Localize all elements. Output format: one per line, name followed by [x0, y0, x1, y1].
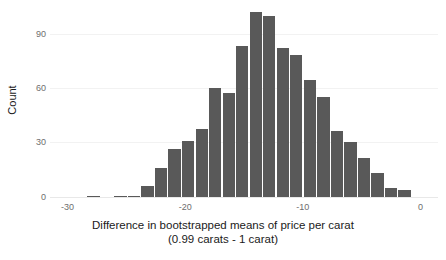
gridline-90	[50, 34, 438, 35]
x-axis-title-line1: Difference in bootstrapped means of pric…	[92, 219, 354, 231]
histogram-bar	[168, 149, 180, 198]
histogram-bar	[331, 131, 343, 198]
y-tick-label: 0	[20, 193, 46, 202]
histogram-bar	[182, 141, 194, 198]
y-axis-ticks: 90 60 30 0	[12, 0, 46, 210]
histogram-bar	[236, 46, 248, 198]
histogram-bar	[155, 168, 167, 198]
x-tick-label: -10	[296, 203, 309, 212]
x-axis-line	[50, 197, 438, 198]
histogram-bar	[277, 48, 289, 198]
x-axis-title-line2: (0.99 carats - 1 carat)	[0, 232, 446, 246]
histogram-bar	[317, 97, 329, 198]
x-axis-title: Difference in bootstrapped means of pric…	[0, 218, 446, 247]
histogram-bar	[290, 55, 302, 198]
histogram-bar	[209, 88, 221, 198]
x-tick-label: -20	[179, 203, 192, 212]
histogram-bar	[223, 93, 235, 198]
histogram-bar	[304, 80, 316, 198]
histogram-bar	[358, 158, 370, 198]
x-axis-ticks: -30 -20 -10 0	[50, 203, 438, 217]
histogram-figure: Count 90 60 30 0 -30 -20 -10 0 Differenc…	[0, 0, 446, 260]
y-tick-label: 60	[20, 84, 46, 93]
histogram-bar	[250, 12, 262, 198]
y-tick-label: 30	[20, 138, 46, 147]
histogram-bar	[344, 142, 356, 198]
histogram-bar	[196, 129, 208, 198]
histogram-bar	[371, 173, 383, 198]
histogram-bar	[263, 16, 275, 198]
plot-area	[50, 4, 438, 198]
x-tick-label: 0	[418, 203, 423, 212]
x-tick-label: -30	[61, 203, 74, 212]
y-tick-label: 90	[20, 30, 46, 39]
